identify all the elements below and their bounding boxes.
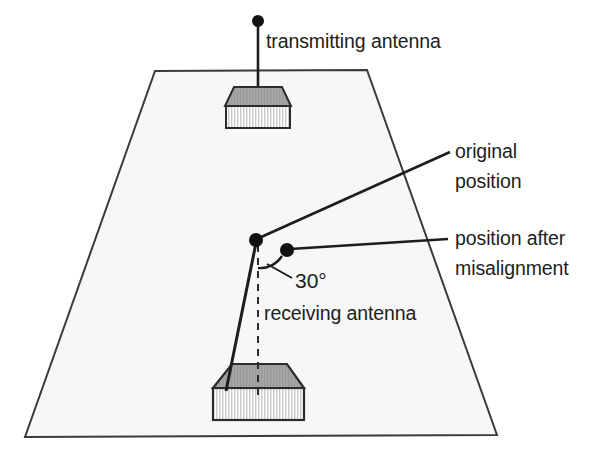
original-position-label-line1: original [455, 140, 517, 162]
misaligned-position-label-line1: position after [455, 227, 566, 249]
angle-value-label: 30° [295, 269, 327, 292]
original-position-label-line2: position [455, 170, 521, 192]
misaligned-position-dot [280, 243, 294, 257]
original-position-dot [249, 233, 263, 247]
transmitting-station-roof [225, 87, 291, 106]
antenna-misalignment-diagram: transmitting antenna original position p… [0, 0, 592, 457]
transmitting-station-wall [226, 106, 290, 128]
diagram-canvas: transmitting antenna original position p… [0, 0, 592, 457]
receiving-antenna-label: receiving antenna [264, 302, 416, 324]
misaligned-position-label-line2: misalignment [455, 257, 569, 279]
transmitting-antenna-tip-dot [252, 15, 264, 27]
transmitting-antenna-label: transmitting antenna [266, 30, 441, 52]
